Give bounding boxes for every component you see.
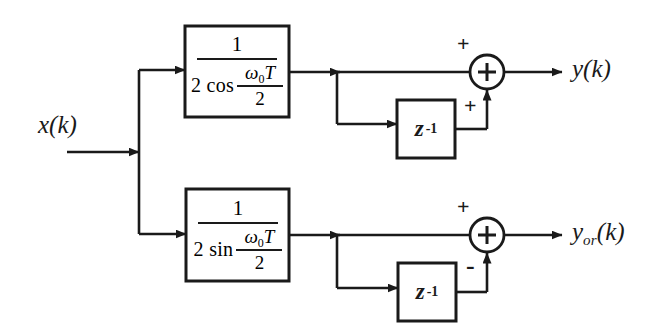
sin-numerator: 1 — [233, 198, 244, 220]
top-output-label: y(k) — [572, 56, 611, 81]
bottom-delay-symbol: z — [416, 279, 425, 305]
sin-gain-expression: 1 2 sin ω0T 2 — [186, 190, 290, 280]
bottom-output-label: yor(k) — [572, 219, 625, 248]
cos-period-symbol: T — [265, 62, 276, 83]
sin-inner-numerator: ω0T — [244, 227, 274, 249]
block-diagram-figure: x(k) 1 2 cos ω0T 2 z-1 + + y(k) 1 — [0, 0, 671, 336]
cos-omega-symbol: ω — [245, 62, 258, 83]
bottom-summer-sign-bottom: - — [466, 253, 475, 279]
cos-fraction-bar — [197, 58, 277, 60]
sin-period-symbol: T — [264, 226, 275, 247]
diagram-wiring-layer — [0, 0, 671, 336]
cos-gain-expression: 1 2 cos ω0T 2 — [185, 26, 289, 116]
input-label: x(k) — [38, 112, 77, 137]
cos-trig-label: 2 cos — [191, 75, 234, 95]
top-delay-symbol: z — [415, 116, 424, 142]
bottom-delay-label: z-1 — [398, 263, 456, 321]
bottom-output-arg: (k) — [597, 218, 625, 245]
sin-omega-symbol: ω — [244, 226, 257, 247]
top-summer-sign-bottom: + — [464, 95, 477, 117]
bottom-delay-exponent: -1 — [427, 284, 439, 300]
sin-fraction-bar — [198, 222, 278, 224]
bottom-output-base: y — [572, 218, 583, 245]
top-output-arg: (k) — [583, 55, 611, 82]
cos-inner-fraction-bar — [237, 85, 283, 86]
top-delay-label: z-1 — [397, 100, 455, 158]
top-summer-sign-top: + — [457, 33, 470, 55]
sin-inner-fraction-bar — [236, 249, 282, 250]
top-output-base: y — [572, 55, 583, 82]
cos-inner-fraction: ω0T 2 — [237, 63, 283, 108]
cos-numerator: 1 — [232, 34, 243, 56]
top-delay-exponent: -1 — [426, 121, 438, 137]
sin-inner-fraction: ω0T 2 — [236, 227, 282, 272]
bottom-output-subscript: or — [583, 232, 597, 248]
cos-inner-denominator: 2 — [255, 88, 265, 108]
cos-inner-numerator: ω0T — [245, 63, 275, 85]
sin-trig-label: 2 sin — [194, 239, 234, 259]
sin-inner-denominator: 2 — [255, 252, 265, 272]
bottom-summer-sign-top: + — [457, 196, 470, 218]
